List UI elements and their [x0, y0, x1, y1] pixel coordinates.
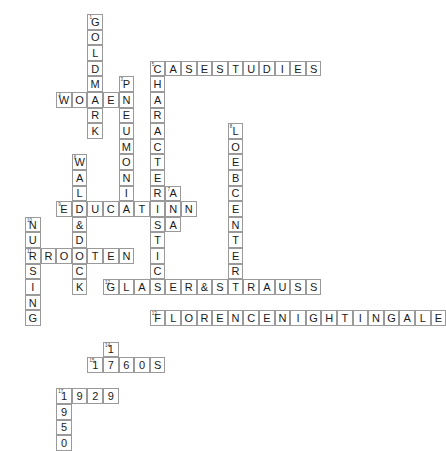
crossword-cell[interactable]: E — [119, 108, 135, 124]
crossword-cell[interactable]: O — [72, 92, 88, 108]
crossword-cell[interactable]: S — [306, 279, 322, 295]
crossword-cell[interactable]: R — [41, 248, 57, 264]
crossword-cell[interactable]: A — [72, 170, 88, 186]
crossword-cell[interactable]: G — [25, 310, 41, 326]
crossword-cell[interactable]: T — [228, 279, 244, 295]
crossword-cell[interactable]: 8L — [228, 123, 244, 139]
crossword-cell[interactable]: E — [150, 170, 166, 186]
crossword-cell[interactable]: U — [243, 61, 259, 77]
crossword-cell[interactable]: 2 — [87, 388, 103, 404]
crossword-cell[interactable]: O — [181, 310, 197, 326]
crossword-cell[interactable]: 3P — [119, 76, 135, 92]
crossword-cell[interactable]: 6W — [72, 154, 88, 170]
crossword-cell[interactable]: I — [353, 310, 369, 326]
crossword-cell[interactable]: D — [72, 201, 88, 217]
crossword-cell[interactable]: N — [119, 248, 135, 264]
crossword-cell[interactable]: U — [119, 123, 135, 139]
crossword-cell[interactable]: 0 — [56, 435, 72, 451]
crossword-cell[interactable]: S — [290, 279, 306, 295]
crossword-cell[interactable]: T — [150, 154, 166, 170]
crossword-cell[interactable]: 9 — [56, 404, 72, 420]
crossword-cell[interactable]: D — [87, 61, 103, 77]
crossword-cell[interactable]: 171 — [56, 388, 72, 404]
crossword-cell[interactable]: N — [368, 310, 384, 326]
crossword-cell[interactable]: D — [259, 61, 275, 77]
crossword-cell[interactable]: I — [275, 61, 291, 77]
crossword-cell[interactable]: L — [87, 45, 103, 61]
crossword-cell[interactable]: M — [87, 76, 103, 92]
crossword-cell[interactable]: L — [415, 310, 431, 326]
crossword-cell[interactable]: 11R — [25, 248, 41, 264]
crossword-cell[interactable]: L — [72, 186, 88, 202]
crossword-cell[interactable]: I — [119, 186, 135, 202]
crossword-cell[interactable]: E — [290, 61, 306, 77]
crossword-cell[interactable]: H — [321, 310, 337, 326]
crossword-cell[interactable]: K — [87, 123, 103, 139]
crossword-cell[interactable]: R — [150, 186, 166, 202]
crossword-cell[interactable]: E — [212, 310, 228, 326]
crossword-cell[interactable]: N — [119, 92, 135, 108]
crossword-cell[interactable]: N — [25, 295, 41, 311]
crossword-cell[interactable]: G — [384, 310, 400, 326]
crossword-cell[interactable]: G — [306, 310, 322, 326]
crossword-cell[interactable]: O — [119, 154, 135, 170]
crossword-cell[interactable]: I — [25, 279, 41, 295]
crossword-cell[interactable]: E — [228, 154, 244, 170]
crossword-cell[interactable]: N — [181, 201, 197, 217]
crossword-cell[interactable]: S — [150, 279, 166, 295]
crossword-cell[interactable]: 7A — [165, 186, 181, 202]
crossword-cell[interactable]: 6 — [119, 357, 135, 373]
crossword-cell[interactable]: 12G — [103, 279, 119, 295]
crossword-cell[interactable]: L — [119, 279, 135, 295]
crossword-cell[interactable]: A — [259, 279, 275, 295]
crossword-cell[interactable]: 0 — [134, 357, 150, 373]
crossword-cell[interactable]: 9E — [56, 201, 72, 217]
crossword-cell[interactable]: A — [119, 201, 135, 217]
crossword-cell[interactable]: R — [181, 279, 197, 295]
crossword-cell[interactable]: E — [228, 201, 244, 217]
crossword-cell[interactable]: & — [197, 279, 213, 295]
crossword-cell[interactable]: A — [399, 310, 415, 326]
crossword-cell[interactable]: T — [228, 232, 244, 248]
crossword-cell[interactable]: L — [165, 310, 181, 326]
crossword-cell[interactable]: E — [228, 248, 244, 264]
crossword-cell[interactable]: O — [87, 30, 103, 46]
crossword-cell[interactable]: A — [165, 61, 181, 77]
crossword-cell[interactable]: H — [150, 76, 166, 92]
crossword-cell[interactable]: I — [290, 310, 306, 326]
crossword-cell[interactable]: U — [275, 279, 291, 295]
crossword-cell[interactable]: N — [165, 201, 181, 217]
crossword-cell[interactable]: A — [87, 92, 103, 108]
crossword-cell[interactable]: A — [150, 123, 166, 139]
crossword-cell[interactable]: C — [103, 201, 119, 217]
crossword-cell[interactable]: N — [228, 217, 244, 233]
crossword-cell[interactable]: C — [228, 186, 244, 202]
crossword-cell[interactable]: C — [243, 310, 259, 326]
crossword-cell[interactable]: 9 — [72, 388, 88, 404]
crossword-cell[interactable]: M — [119, 139, 135, 155]
crossword-cell[interactable]: T — [337, 310, 353, 326]
crossword-cell[interactable]: C — [72, 264, 88, 280]
crossword-cell[interactable]: N — [275, 310, 291, 326]
crossword-cell[interactable]: T — [228, 61, 244, 77]
crossword-cell[interactable]: U — [25, 232, 41, 248]
crossword-cell[interactable]: S — [25, 264, 41, 280]
crossword-cell[interactable]: O — [72, 248, 88, 264]
crossword-cell[interactable]: S — [181, 61, 197, 77]
crossword-cell[interactable]: & — [72, 217, 88, 233]
crossword-cell[interactable]: 1G — [87, 14, 103, 30]
crossword-cell[interactable]: S — [212, 61, 228, 77]
crossword-cell[interactable]: 151 — [87, 357, 103, 373]
crossword-cell[interactable]: R — [243, 279, 259, 295]
crossword-cell[interactable]: E — [103, 92, 119, 108]
crossword-cell[interactable]: N — [228, 310, 244, 326]
crossword-cell[interactable]: I — [150, 248, 166, 264]
crossword-cell[interactable]: 9 — [103, 388, 119, 404]
crossword-cell[interactable]: T — [150, 232, 166, 248]
crossword-cell[interactable]: 141 — [103, 342, 119, 358]
crossword-cell[interactable]: R — [197, 310, 213, 326]
crossword-cell[interactable]: A — [150, 92, 166, 108]
crossword-cell[interactable]: R — [87, 108, 103, 124]
crossword-cell[interactable]: 4W — [56, 92, 72, 108]
crossword-cell[interactable]: A — [165, 217, 181, 233]
